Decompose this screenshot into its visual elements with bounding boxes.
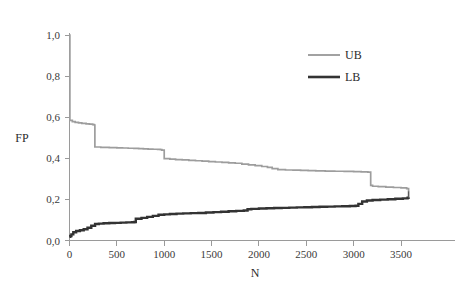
- x-axis-tick-labels: 0500100015002000250030003500: [67, 248, 413, 260]
- x-tick-label: 3000: [343, 248, 366, 260]
- x-tick-label: 500: [109, 248, 126, 260]
- x-axis-ticks: [70, 241, 402, 246]
- y-axis-ticks: [65, 35, 70, 241]
- y-tick-label: 0,8: [46, 70, 60, 82]
- y-axis-tick-labels: 0,00,20,40,60,81,0: [46, 29, 60, 247]
- legend-label-lb: LB: [345, 70, 360, 84]
- x-tick-label: 2500: [295, 248, 318, 260]
- data-series-group: [70, 35, 409, 237]
- x-tick-label: 1500: [201, 248, 224, 260]
- x-tick-label: 1000: [153, 248, 176, 260]
- y-axis-title: FP: [15, 131, 29, 145]
- x-tick-label: 2000: [248, 248, 271, 260]
- series-line-lb: [70, 197, 409, 236]
- y-tick-label: 0,0: [46, 235, 60, 247]
- y-tick-label: 0,6: [46, 111, 60, 123]
- x-tick-label: 0: [67, 248, 73, 260]
- chart-legend: UB LB: [308, 48, 362, 84]
- chart-plot-area: 0,00,20,40,60,81,0 050010001500200025003…: [0, 0, 469, 295]
- y-tick-label: 1,0: [46, 29, 60, 41]
- chart-figure: 0,00,20,40,60,81,0 050010001500200025003…: [0, 0, 469, 295]
- x-axis-title: N: [251, 266, 260, 280]
- y-tick-label: 0,2: [46, 193, 60, 205]
- legend-label-ub: UB: [345, 48, 362, 62]
- y-tick-label: 0,4: [46, 152, 60, 164]
- x-tick-label: 3500: [390, 248, 413, 260]
